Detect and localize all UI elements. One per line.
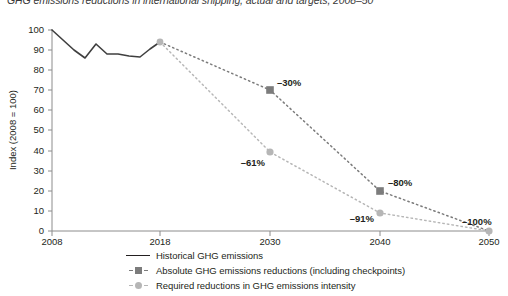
y-tick-label-100: 100 xyxy=(28,24,44,35)
legend-key-square-icon xyxy=(120,265,156,277)
x-tick-label-2030: 2030 xyxy=(259,236,280,245)
legend-key-circle-icon xyxy=(120,280,156,292)
y-tick-label-90: 90 xyxy=(33,44,44,55)
x-tick-label-2040: 2040 xyxy=(369,236,390,245)
y-tick-label-20: 20 xyxy=(33,185,44,196)
marker-absolute-2040 xyxy=(376,187,384,195)
annotation-minus-100: –100% xyxy=(462,216,492,227)
chart-legend: Historical GHG emissions Absolute GHG em… xyxy=(120,248,460,293)
y-tick-label-0: 0 xyxy=(39,225,44,236)
legend-label-intensity: Required reductions in GHG emissions int… xyxy=(156,280,355,291)
y-tick-label-60: 60 xyxy=(33,104,44,115)
y-tick-label-40: 40 xyxy=(33,145,44,156)
y-tick-label-70: 70 xyxy=(33,84,44,95)
annotation-minus-91: –91% xyxy=(350,213,375,224)
series-historical-line xyxy=(52,30,160,58)
legend-item-historical[interactable]: Historical GHG emissions xyxy=(120,248,460,263)
x-tick-label-2008: 2008 xyxy=(41,236,62,245)
x-tick-label-2050: 2050 xyxy=(478,236,499,245)
marker-absolute-2030 xyxy=(266,86,274,94)
marker-intensity-2018 xyxy=(157,39,164,46)
x-tick-label-2018: 2018 xyxy=(149,236,170,245)
y-tick-label-80: 80 xyxy=(33,64,44,75)
y-axis-ticks xyxy=(48,30,52,231)
legend-label-historical: Historical GHG emissions xyxy=(156,250,263,261)
y-tick-label-50: 50 xyxy=(33,124,44,135)
y-tick-label-30: 30 xyxy=(33,165,44,176)
series-absolute-line xyxy=(160,42,489,231)
legend-key-line-icon xyxy=(120,250,156,262)
series-intensity-line xyxy=(160,42,489,231)
y-tick-label-10: 10 xyxy=(33,205,44,216)
annotation-minus-61: –61% xyxy=(241,157,266,168)
annotation-minus-80: –80% xyxy=(388,177,413,188)
marker-intensity-2050 xyxy=(485,227,492,234)
legend-label-absolute: Absolute GHG emissions reductions (inclu… xyxy=(156,265,405,276)
legend-item-absolute[interactable]: Absolute GHG emissions reductions (inclu… xyxy=(120,263,460,278)
marker-intensity-2040 xyxy=(376,209,383,216)
marker-intensity-2030 xyxy=(266,148,273,155)
annotation-minus-30: –30% xyxy=(277,77,302,88)
chart-figure: GHG emissions reductions in internationa… xyxy=(0,0,508,296)
y-axis-title: Index (2008 = 100) xyxy=(7,90,18,170)
legend-item-intensity[interactable]: Required reductions in GHG emissions int… xyxy=(120,278,460,293)
chart-plot-area: 0 10 20 30 40 50 60 70 80 90 100 2008 20… xyxy=(0,0,508,245)
